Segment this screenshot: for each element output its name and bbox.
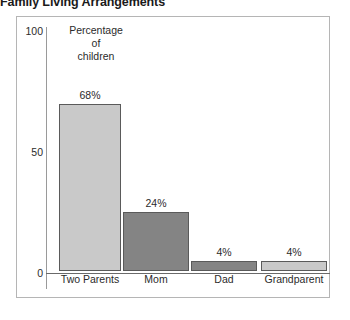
y-tick-label-100: 100	[3, 25, 43, 37]
y-tick-label-0: 0	[3, 267, 43, 279]
bar-value-label: 68%	[59, 89, 121, 101]
bar-group: 4% Grandparent	[261, 24, 327, 271]
bar-value-label: 4%	[261, 246, 327, 258]
bar-category-label: Grandparent	[247, 273, 341, 285]
plot-area: 100 50 0 Percentage of children 68% Two …	[17, 17, 329, 297]
bar-value-label: 4%	[191, 246, 257, 258]
y-axis-line	[46, 27, 47, 289]
bar-group: 4% Dad	[191, 24, 257, 271]
y-tick-label-50: 50	[3, 146, 43, 158]
bar-value-label: 24%	[123, 197, 189, 209]
bar[interactable]	[261, 261, 327, 271]
bar[interactable]	[59, 104, 121, 271]
chart-title: Family Living Arrangements	[0, 0, 350, 9]
bar-group: 24% Mom	[123, 24, 189, 271]
chart-frame: 100 50 0 Percentage of children 68% Two …	[16, 16, 330, 298]
bar[interactable]	[123, 212, 189, 271]
bar[interactable]	[191, 261, 257, 271]
bar-group: 68% Two Parents	[59, 24, 121, 271]
